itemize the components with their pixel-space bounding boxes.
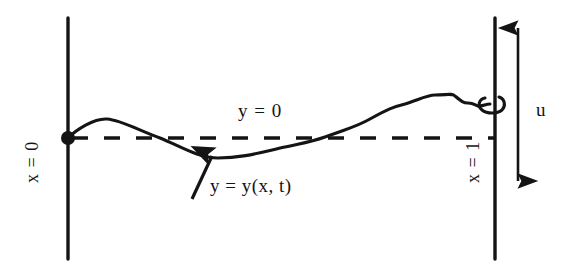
figure-container: y = 0 y = y(x, t) u x = 0 x = 1 — [0, 0, 575, 277]
string-diagram-svg — [0, 0, 575, 277]
displacement-label: u — [536, 100, 546, 119]
left-boundary-label: x = 0 — [23, 141, 41, 183]
curve-label-pointer-arrow — [192, 156, 212, 199]
equilibrium-label: y = 0 — [238, 101, 282, 120]
right-boundary-label: x = 1 — [464, 141, 482, 183]
wave-function-label: y = y(x, t) — [210, 176, 292, 195]
left-endpoint-dot — [61, 131, 75, 145]
